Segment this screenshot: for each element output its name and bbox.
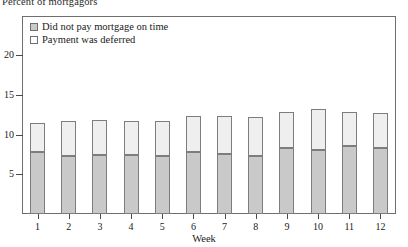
bar-segment-did-not-pay (342, 146, 357, 214)
bar-column (342, 112, 357, 214)
x-axis-tick (38, 214, 39, 219)
x-axis-tick-label: 9 (284, 221, 289, 232)
bar-segment-deferred (186, 116, 201, 152)
bar-segment-did-not-pay (61, 156, 76, 214)
x-axis-tick (193, 214, 194, 219)
bar-segment-deferred (92, 120, 107, 154)
bar-segment-deferred (61, 121, 76, 156)
bar-segment-did-not-pay (186, 152, 201, 214)
y-axis-tick-label: 15 (0, 90, 14, 100)
bar-segment-deferred (373, 113, 388, 148)
bar-segment-did-not-pay (92, 155, 107, 214)
y-axis-tick (16, 174, 23, 175)
x-axis-tick-label: 4 (129, 221, 134, 232)
x-axis-tick (256, 214, 257, 219)
x-axis-tick (349, 214, 350, 219)
x-axis-tick (162, 214, 163, 219)
bar-segment-did-not-pay (373, 148, 388, 214)
x-axis-tick-label: 1 (35, 221, 40, 232)
legend-item-deferred: Payment was deferred (30, 33, 168, 46)
bar-segment-deferred (311, 109, 326, 149)
bar-segment-deferred (248, 117, 263, 156)
chart-legend: Did not pay mortgage on time Payment was… (30, 20, 168, 46)
bar-column (279, 112, 294, 214)
bar-segment-did-not-pay (248, 156, 263, 214)
white-swatch-icon (30, 36, 38, 44)
x-axis-tick (380, 214, 381, 219)
y-axis-tick-label: 10 (0, 130, 14, 140)
y-axis-tick-label: 5 (0, 169, 14, 179)
bar-segment-did-not-pay (311, 150, 326, 214)
bar-segment-did-not-pay (124, 155, 139, 214)
gray-swatch-icon (30, 23, 38, 31)
x-axis-tick (225, 214, 226, 219)
bar-segment-deferred (124, 121, 139, 155)
bar-column (61, 121, 76, 214)
y-axis-tick (16, 55, 23, 56)
bar-segment-deferred (30, 123, 45, 152)
x-axis-tick-label: 11 (344, 221, 354, 232)
x-axis-tick-label: 12 (375, 221, 385, 232)
x-axis-tick-label: 8 (253, 221, 258, 232)
bar-column (217, 116, 232, 214)
bar-column (186, 116, 201, 214)
chart-container: Percent of mortgagors 5101520 1234567891… (0, 0, 408, 247)
x-axis-tick (69, 214, 70, 219)
y-axis-tick (16, 135, 23, 136)
y-axis-tick-label: 20 (0, 50, 14, 60)
bar-segment-did-not-pay (217, 154, 232, 214)
x-axis-title: Week (0, 233, 408, 244)
bar-column (155, 121, 170, 214)
bar-column (30, 123, 45, 214)
x-axis-tick-label: 3 (97, 221, 102, 232)
bar-segment-deferred (279, 112, 294, 148)
x-axis-tick-label: 6 (191, 221, 196, 232)
bar-column (124, 121, 139, 214)
x-axis-tick (318, 214, 319, 219)
x-axis-tick-label: 7 (222, 221, 227, 232)
bar-column (248, 117, 263, 214)
legend-item-did-not-pay: Did not pay mortgage on time (30, 20, 168, 33)
x-axis-tick (131, 214, 132, 219)
y-axis-tick (16, 95, 23, 96)
bar-column (311, 109, 326, 214)
legend-label-deferred: Payment was deferred (42, 33, 135, 46)
legend-label-did-not-pay: Did not pay mortgage on time (42, 20, 168, 33)
x-axis-tick (100, 214, 101, 219)
bar-segment-did-not-pay (155, 156, 170, 214)
x-axis-tick (287, 214, 288, 219)
bar-segment-deferred (217, 116, 232, 154)
bar-column (92, 120, 107, 214)
chart-title: Percent of mortgagors (2, 0, 97, 7)
bar-segment-deferred (155, 121, 170, 156)
x-axis-tick-label: 2 (66, 221, 71, 232)
x-axis-tick-label: 10 (313, 221, 323, 232)
bar-segment-did-not-pay (279, 148, 294, 214)
bar-column (373, 113, 388, 214)
x-axis-tick-label: 5 (160, 221, 165, 232)
bar-segment-did-not-pay (30, 152, 45, 214)
bar-segment-deferred (342, 112, 357, 146)
